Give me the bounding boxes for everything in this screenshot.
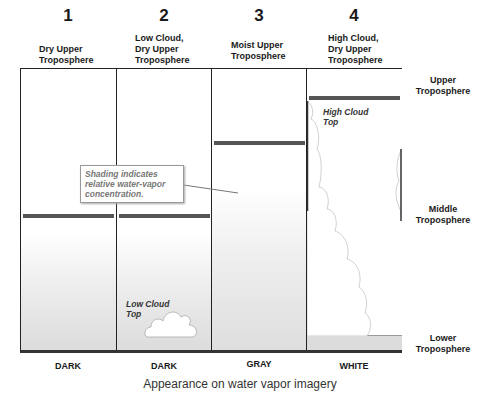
label-line: Middle [408,204,478,215]
label-line: Troposphere [408,344,478,355]
label-line: Upper [408,75,478,86]
callout-line: Shading indicates [85,169,179,179]
diagram-caption: Appearance on water vapor imagery [0,377,480,391]
upper-troposphere-label: Upper Troposphere [408,75,478,97]
middle-troposphere-label: Middle Troposphere [408,204,478,226]
column-2-appearance: DARK [116,361,212,371]
label-line: Lower [408,333,478,344]
column-3-appearance: GRAY [211,359,307,369]
callout-line: relative water-vapor [85,179,179,189]
column-1-appearance: DARK [20,361,116,371]
callout-line: concentration. [85,189,179,199]
label-line: Troposphere [408,215,478,226]
column-4-appearance: WHITE [306,361,402,371]
label-line: Troposphere [408,86,478,97]
lower-troposphere-label: Lower Troposphere [408,333,478,355]
shading-callout: Shading indicates relative water-vapor c… [80,165,184,203]
